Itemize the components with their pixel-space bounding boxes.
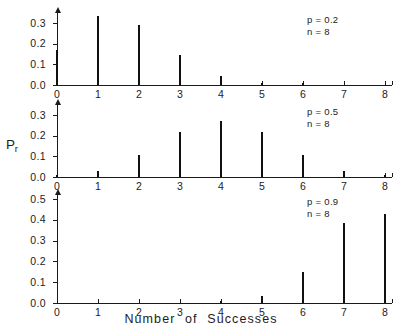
- impulse-bar: [384, 214, 386, 303]
- x-axis-tick: [139, 299, 140, 304]
- y-axis-line: [57, 195, 58, 303]
- x-axis-tick: [98, 299, 99, 304]
- y-axis-arrow-icon: [55, 189, 61, 195]
- panel-annotation: p = 0.2n = 8: [307, 14, 338, 37]
- panel-annotation: p = 0.5n = 8: [307, 106, 338, 129]
- x-axis-end-tick: [392, 173, 393, 177]
- x-axis-tick-label: 8: [375, 88, 395, 100]
- impulse-bar: [97, 16, 99, 85]
- y-axis-tick: [53, 261, 58, 262]
- x-axis-tick: [344, 81, 345, 86]
- impulse-bar: [302, 83, 304, 85]
- x-axis-line: [57, 85, 392, 86]
- y-axis-tick: [53, 177, 58, 178]
- x-axis-title: Number of Successes: [0, 312, 402, 326]
- y-axis-tick: [53, 115, 58, 116]
- y-axis-tick-label: 0.3: [12, 17, 46, 29]
- y-axis-tick-label: 0.1: [12, 58, 46, 70]
- x-axis-tick-label: 2: [129, 180, 149, 192]
- y-axis-tick: [53, 241, 58, 242]
- x-axis-tick-label: 8: [375, 180, 395, 192]
- impulse-bar: [302, 272, 304, 303]
- impulse-bar: [220, 121, 222, 177]
- y-axis-tick-label: 0.3: [12, 234, 46, 246]
- x-axis-end-tick: [392, 81, 393, 85]
- panel-annotation: p = 0.9n = 8: [307, 196, 338, 219]
- y-axis-tick-label: 0.1: [12, 276, 46, 288]
- y-axis-tick: [53, 282, 58, 283]
- y-axis-tick-label: 0.2: [12, 37, 46, 49]
- impulse-bar: [138, 155, 140, 177]
- y-axis-arrow-icon: [55, 99, 61, 105]
- y-axis-tick-label: 0.2: [12, 129, 46, 141]
- y-axis-tick-label: 0.0: [12, 171, 46, 183]
- annotation-n: n = 8: [307, 118, 330, 129]
- impulse-bar: [261, 83, 263, 85]
- y-axis-tick: [53, 23, 58, 24]
- x-axis-tick: [180, 299, 181, 304]
- y-axis-tick: [53, 85, 58, 86]
- x-axis-tick-label: 4: [211, 88, 231, 100]
- y-axis-line: [57, 105, 58, 177]
- x-axis-tick-label: 3: [170, 180, 190, 192]
- y-axis-tick: [53, 303, 58, 304]
- impulse-bar: [261, 132, 263, 177]
- x-axis-tick-label: 1: [88, 180, 108, 192]
- y-axis-tick-label: 0.4: [12, 213, 46, 225]
- impulse-bar: [343, 223, 345, 303]
- impulse-bar: [56, 50, 58, 85]
- y-axis-tick: [53, 44, 58, 45]
- impulse-bar: [56, 175, 58, 177]
- y-axis-tick: [53, 199, 58, 200]
- annotation-p: p = 0.9: [307, 196, 338, 207]
- x-axis-tick-label: 1: [88, 88, 108, 100]
- y-axis-tick: [53, 220, 58, 221]
- x-axis-line: [57, 303, 392, 304]
- x-axis-tick-label: 7: [334, 88, 354, 100]
- y-axis-tick-label: 0.5: [12, 193, 46, 205]
- impulse-bar: [261, 296, 263, 303]
- x-axis-end-tick: [392, 299, 393, 303]
- x-axis-tick-label: 5: [252, 88, 272, 100]
- impulse-bar: [384, 175, 386, 177]
- y-axis-tick-label: 0.1: [12, 150, 46, 162]
- y-axis-tick-label: 0.0: [12, 297, 46, 309]
- x-axis-line: [57, 177, 392, 178]
- y-axis-tick: [53, 136, 58, 137]
- y-axis-tick-label: 0.3: [12, 109, 46, 121]
- x-axis-tick-label: 6: [293, 180, 313, 192]
- impulse-bar: [179, 132, 181, 177]
- x-axis-tick: [385, 81, 386, 86]
- annotation-p: p = 0.2: [307, 14, 338, 25]
- impulse-bar: [302, 155, 304, 177]
- x-axis-tick-label: 4: [211, 180, 231, 192]
- impulse-bar: [220, 301, 222, 303]
- x-axis-tick-label: 3: [170, 88, 190, 100]
- impulse-bar: [179, 55, 181, 85]
- annotation-n: n = 8: [307, 26, 330, 37]
- x-axis-tick-label: 2: [129, 88, 149, 100]
- annotation-p: p = 0.5: [307, 106, 338, 117]
- impulse-bar: [138, 25, 140, 85]
- x-axis-tick: [57, 299, 58, 304]
- x-axis-tick-label: 6: [293, 88, 313, 100]
- impulse-bar: [220, 76, 222, 85]
- impulse-bar: [97, 171, 99, 177]
- binomial-distribution-figure: Pr 0.00.10.20.3012345678p = 0.2n = 8 0.0…: [0, 0, 402, 336]
- y-axis-tick-label: 0.2: [12, 255, 46, 267]
- y-axis-tick: [53, 156, 58, 157]
- y-axis-tick-label: 0.0: [12, 79, 46, 91]
- annotation-n: n = 8: [307, 208, 330, 219]
- x-axis-tick-label: 7: [334, 180, 354, 192]
- impulse-bar: [343, 171, 345, 177]
- y-axis-arrow-icon: [55, 7, 61, 13]
- x-axis-tick-label: 5: [252, 180, 272, 192]
